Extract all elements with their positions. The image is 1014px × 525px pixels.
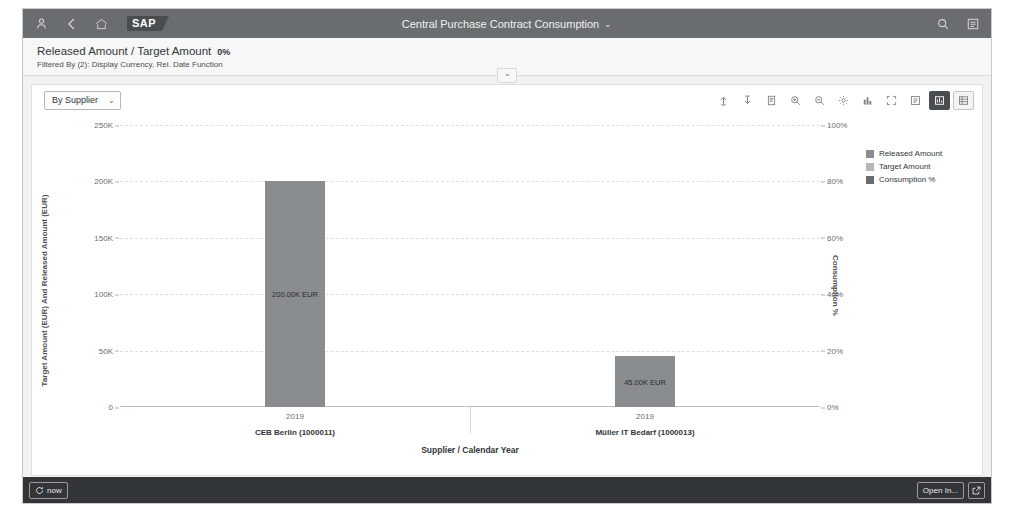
y2-axis-tick-label: 60% — [827, 233, 843, 242]
y2-axis-tick-label: 0% — [827, 403, 839, 412]
legend-item[interactable]: Consumption % — [866, 175, 974, 184]
footer-right-group: Open In... — [917, 482, 985, 499]
shell-bar-right-group — [935, 16, 981, 32]
x-axis-supplier-label: CEB Berlin (1000011) — [255, 428, 335, 437]
category-separator — [470, 407, 471, 433]
shell-bar-title-text: Central Purchase Contract Consumption — [402, 18, 599, 30]
y2-axis-tick-label: 100% — [827, 121, 847, 130]
dimension-select[interactable]: By Supplier ⌄ — [44, 91, 121, 110]
kpi-row: Released Amount / Target Amount 0% — [37, 45, 977, 57]
x-axis-supplier-label: Müller IT Bedarf (1000013) — [595, 428, 694, 437]
y2-axis-title: Consumption % — [828, 225, 842, 345]
y2-axis-tick-label: 40% — [827, 290, 843, 299]
overflow-menu-icon[interactable] — [965, 16, 981, 32]
page-sub-header: Released Amount / Target Amount 0% Filte… — [23, 38, 991, 76]
y-axis-tick-label: 100K — [94, 290, 113, 299]
x-axis-title: Supplier / Calendar Year — [120, 445, 820, 455]
chevron-down-icon: ⌄ — [108, 96, 115, 105]
refresh-now-label: now — [47, 486, 62, 495]
grid-line — [120, 181, 820, 182]
y2-axis-tick-label: 80% — [827, 177, 843, 186]
chart-bar[interactable]: 45.00K EUR — [615, 356, 675, 407]
grid-line — [120, 125, 820, 126]
chart-toolbar: By Supplier ⌄ — [32, 85, 982, 115]
y-axis-tick-label: 50K — [99, 346, 113, 355]
external-link-icon[interactable] — [968, 482, 985, 499]
full-screen-icon[interactable] — [881, 91, 902, 110]
y2-axis-tick-label: 20% — [827, 346, 843, 355]
drill-down-icon[interactable] — [737, 91, 758, 110]
bar-data-label: 200.00K EUR — [265, 290, 325, 299]
legend-item[interactable]: Target Amount — [866, 162, 974, 171]
application-page: SAP Central Purchase Contract Consumptio… — [22, 8, 992, 504]
grid-line — [120, 351, 820, 352]
chart-legend: Released AmountTarget AmountConsumption … — [866, 149, 974, 188]
y-axis-tick-label: 250K — [94, 121, 113, 130]
back-icon[interactable] — [63, 16, 79, 32]
sap-logo: SAP — [127, 16, 162, 31]
legend-color-swatch — [866, 176, 874, 184]
shell-bar: SAP Central Purchase Contract Consumptio… — [23, 9, 991, 38]
y-axis-tick-label: 150K — [94, 233, 113, 242]
dimension-select-label: By Supplier — [52, 95, 98, 105]
shell-bar-left-group: SAP — [33, 16, 162, 32]
chart-view-icon[interactable] — [929, 91, 950, 110]
legend-item-label: Released Amount — [879, 149, 942, 158]
footer-bar: now Open In... — [23, 477, 991, 503]
zoom-in-icon[interactable] — [785, 91, 806, 110]
bar-data-label: 45.00K EUR — [615, 377, 675, 386]
grid-line — [120, 238, 820, 239]
y-axis-tick-label: 0 — [109, 403, 113, 412]
x-axis-category[interactable]: 2019CEB Berlin (1000011) — [255, 407, 335, 437]
chevron-down-icon: ⌄ — [604, 19, 612, 29]
open-in-label: Open In... — [923, 486, 958, 495]
grid-line — [120, 294, 820, 295]
refresh-now-button[interactable]: now — [29, 482, 68, 499]
legend-item-label: Target Amount — [879, 162, 931, 171]
x-axis-year-label: 2019 — [255, 412, 335, 421]
chart-bar[interactable]: 200.00K EUR — [265, 181, 325, 407]
chart-type-icon[interactable] — [857, 91, 878, 110]
plot-canvas[interactable]: 050K100K150K200K250K0%20%40%60%80%100%20… — [120, 125, 820, 407]
y2-axis-title-text: Consumption % — [831, 255, 840, 316]
search-icon[interactable] — [935, 16, 951, 32]
x-axis-category[interactable]: 2019Müller IT Bedarf (1000013) — [595, 407, 694, 437]
legend-item-label: Consumption % — [879, 175, 935, 184]
x-axis-year-label: 2019 — [595, 412, 694, 421]
zoom-out-icon[interactable] — [809, 91, 830, 110]
settings-gear-icon[interactable] — [833, 91, 854, 110]
y-axis-title-text: Target Amount (EUR) And Released Amount … — [41, 194, 50, 386]
home-icon[interactable] — [93, 16, 109, 32]
table-view-icon[interactable] — [953, 91, 974, 110]
legend-color-swatch — [866, 150, 874, 158]
legend-item[interactable]: Released Amount — [866, 149, 974, 158]
page-content: By Supplier ⌄ — [23, 76, 991, 504]
y-axis-tick-label: 200K — [94, 177, 113, 186]
open-in-button[interactable]: Open In... — [917, 482, 964, 499]
collapse-header-button[interactable]: ⌄ — [497, 68, 517, 83]
legend-icon[interactable] — [905, 91, 926, 110]
user-icon[interactable] — [33, 16, 49, 32]
drill-up-icon[interactable] — [713, 91, 734, 110]
chart-card: By Supplier ⌄ — [31, 84, 983, 476]
kpi-value: 0% — [217, 47, 230, 57]
chart-plot-area: Target Amount (EUR) And Released Amount … — [32, 115, 982, 473]
chart-toolbar-actions — [713, 91, 974, 110]
app-root: SAP Central Purchase Contract Consumptio… — [0, 0, 1014, 525]
page-title: Released Amount / Target Amount — [37, 45, 211, 57]
y-axis-title: Target Amount (EUR) And Released Amount … — [38, 155, 52, 425]
legend-color-swatch — [866, 163, 874, 171]
details-icon[interactable] — [761, 91, 782, 110]
